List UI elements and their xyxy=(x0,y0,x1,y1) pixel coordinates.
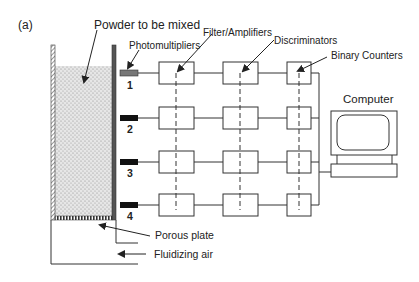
label-discriminators: Discriminators xyxy=(274,36,337,46)
channel-number-1: 1 xyxy=(127,80,133,91)
channel-number-4: 4 xyxy=(127,211,133,222)
label-binary-counters: Binary Counters xyxy=(331,51,403,61)
column-dash-lines xyxy=(176,73,299,210)
label-powder: Powder to be mixed xyxy=(94,19,200,31)
label-porous-plate: Porous plate xyxy=(155,230,214,241)
arrow-photomultipliers xyxy=(128,50,139,68)
powder-bed xyxy=(55,66,112,217)
label-filter-amplifiers: Filter/Amplifiers xyxy=(203,28,272,38)
photomultiplier-2 xyxy=(120,115,138,121)
photomultiplier-4 xyxy=(120,202,138,208)
vessel-right-wall xyxy=(112,45,116,220)
plenum-inner xyxy=(116,220,138,243)
label-photomultipliers: Photomultipliers xyxy=(129,41,200,51)
label-fluidizing-air: Fluidizing air xyxy=(154,249,213,260)
computer-screen xyxy=(337,115,389,150)
panel-label: (a) xyxy=(18,19,33,31)
computer xyxy=(331,111,397,177)
label-computer: Computer xyxy=(343,94,394,106)
vessel-left-wall xyxy=(51,45,55,220)
photomultiplier-3 xyxy=(120,159,138,165)
signal-chain xyxy=(138,62,331,216)
computer-base xyxy=(331,164,397,177)
porous-plate xyxy=(55,216,112,220)
channel-number-3: 3 xyxy=(127,168,133,179)
mixer-vessel xyxy=(51,45,138,264)
arrow-porous-plate xyxy=(100,225,150,236)
plenum-outer xyxy=(51,220,138,264)
photomultiplier-1 xyxy=(120,70,138,76)
channel-number-2: 2 xyxy=(127,124,133,135)
